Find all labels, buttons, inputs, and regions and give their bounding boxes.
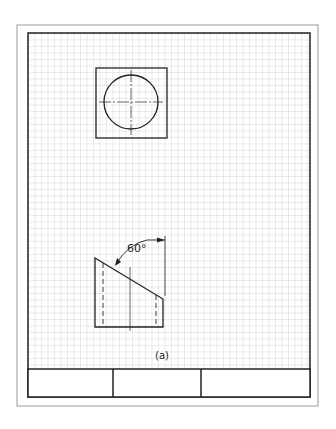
drawing-sheet: 60° (a) [0, 0, 336, 429]
title-block [28, 369, 310, 397]
view-caption: (a) [155, 350, 169, 361]
angle-label: 60° [127, 242, 147, 255]
grid-area [28, 33, 310, 369]
